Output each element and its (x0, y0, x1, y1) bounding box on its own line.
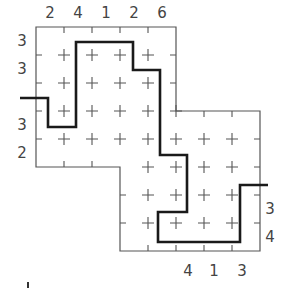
bottom-clue: 4 (183, 262, 193, 280)
right-clue: 4 (265, 228, 275, 246)
left-clue: 3 (17, 32, 27, 50)
grid-marks (36, 27, 260, 251)
left-clue: 3 (17, 60, 27, 78)
right-clue: 3 (265, 200, 275, 218)
right-clues: 3 4 (265, 200, 275, 246)
top-clues: 2 4 1 2 6 (45, 4, 167, 22)
top-clue: 4 (73, 4, 83, 22)
bottom-clue: 1 (209, 262, 219, 280)
top-clue: 1 (101, 4, 111, 22)
top-clue: 6 (157, 4, 167, 22)
puzzle-board: 2 4 1 2 6 3 3 3 2 3 4 4 1 3 (0, 0, 283, 288)
left-clue: 2 (17, 144, 27, 162)
top-clue: 2 (129, 4, 139, 22)
top-clue: 2 (45, 4, 55, 22)
corner-mark (27, 282, 29, 288)
left-clue: 3 (17, 116, 27, 134)
bottom-clues: 4 1 3 (183, 262, 247, 280)
solution-path (20, 42, 268, 242)
bottom-clue: 3 (237, 262, 247, 280)
